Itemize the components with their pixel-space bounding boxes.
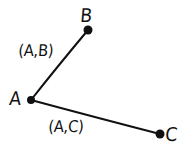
graph-diagram-canvas: A B C (A,B) (A,C) [0, 0, 188, 151]
edge-label-a-b: (A,B) [18, 43, 54, 59]
node-label-a: A [8, 89, 22, 108]
node-dot-c[interactable] [156, 130, 165, 139]
graph-vector-layer [0, 0, 188, 151]
node-label-c: C [164, 125, 178, 144]
node-dot-b[interactable] [84, 26, 93, 35]
edge-label-a-c: (A,C) [48, 119, 84, 135]
node-dot-a[interactable] [27, 96, 35, 104]
node-label-b: B [79, 6, 93, 25]
